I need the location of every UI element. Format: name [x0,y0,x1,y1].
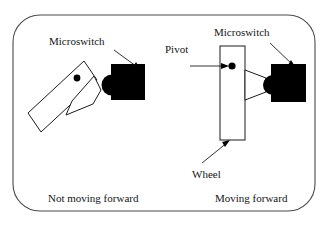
left-pivot-dot [74,75,81,82]
diagram-canvas: Microswitch Not moving forward Pivot Mic… [0,0,329,226]
wheel-label: Wheel [192,168,221,180]
right-lever-arm [245,70,266,100]
right-microswitch-label: Microswitch [214,26,270,38]
diagram-figure: Microswitch Not moving forward Pivot Mic… [0,0,329,226]
left-microswitch-label: Microswitch [49,35,105,47]
right-switch-body [271,64,306,102]
left-panel-caption: Not moving forward [48,192,139,204]
right-pivot-dot [228,62,235,69]
pivot-label: Pivot [165,43,188,55]
right-panel-caption: Moving forward [215,192,288,204]
left-panel-group: Microswitch Not moving forward [28,35,145,204]
right-wheel-body [220,46,245,140]
right-panel-group: Pivot Microswitch Wheel Moving forward [165,26,306,204]
